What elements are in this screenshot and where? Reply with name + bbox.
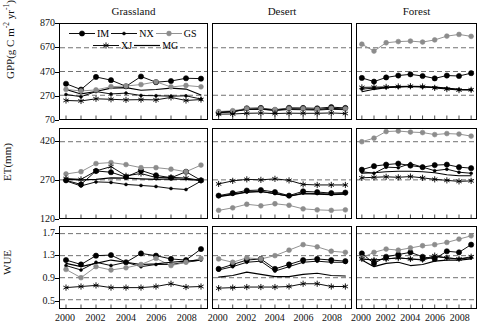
y-axis-label-et: ET(mm): [0, 167, 14, 181]
y-tick-et-420: 420: [16, 135, 55, 146]
y-tick-gpp-670: 670: [16, 41, 55, 52]
y-axis-label-wue: WUE: [0, 261, 14, 275]
chart-panel-wue-grassland: [59, 226, 208, 309]
x-tick-2-2008: 2008: [440, 312, 479, 323]
y-tick-wue-0.9: 0.9: [16, 272, 55, 283]
y-tick-gpp-270: 270: [16, 90, 55, 101]
y-tick-wue-1.7: 1.7: [16, 227, 55, 238]
chart-panel-gpp-forest: [356, 23, 477, 120]
y-tick-et-120: 120: [16, 213, 55, 224]
y-tickmark: [55, 219, 59, 220]
chart-panel-et-desert: [212, 128, 352, 219]
column-title-forest: Forest: [356, 5, 477, 17]
chart-panel-et-grassland: [59, 128, 208, 219]
y-tickmark: [55, 120, 59, 121]
y-tick-wue-0.5: 0.5: [16, 295, 55, 306]
y-tick-et-270: 270: [16, 174, 55, 185]
chart-panel-et-forest: [356, 128, 477, 219]
chart-panel-gpp-desert: [212, 23, 352, 120]
chart-panel-wue-forest: [356, 226, 477, 309]
column-title-desert: Desert: [212, 5, 352, 17]
figure-root: GrasslandDesertForestGPP(g C m-2 yr-1)ET…: [0, 0, 479, 332]
y-axis-label-gpp: GPP(g C m-2 yr-1): [0, 65, 14, 79]
column-title-grassland: Grassland: [59, 5, 208, 17]
chart-panel-wue-desert: [212, 226, 352, 309]
y-tick-gpp-470: 470: [16, 66, 55, 77]
y-tick-gpp-870: 870: [16, 17, 55, 28]
y-tick-wue-1.3: 1.3: [16, 249, 55, 260]
y-tick-gpp-70: 70: [16, 114, 55, 125]
chart-panel-gpp-grassland: [59, 23, 208, 120]
